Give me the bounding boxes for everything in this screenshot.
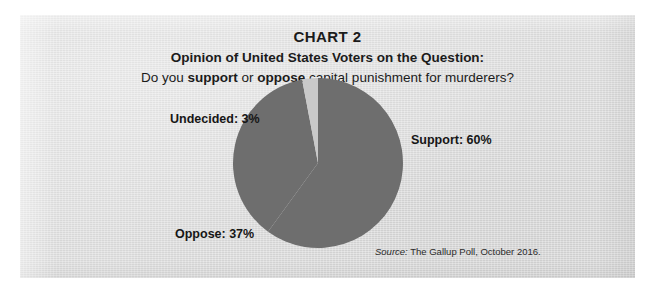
question-keyword-support: support	[188, 70, 238, 85]
pie-chart-svg	[233, 78, 403, 248]
chart-subtitle: Opinion of United States Voters on the Q…	[20, 50, 635, 65]
pie-chart	[233, 78, 403, 248]
source-text: The Gallup Poll, October 2016.	[408, 246, 541, 257]
source-note: Source: The Gallup Poll, October 2016.	[375, 246, 541, 257]
question-text-part1: Do you	[141, 70, 188, 85]
source-label: Source:	[375, 246, 408, 257]
pie-label-undecided: Undecided: 3%	[170, 112, 260, 126]
chart-figure-panel: CHART 2 Opinion of United States Voters …	[20, 15, 635, 278]
pie-label-support: Support: 60%	[411, 133, 492, 147]
chart-title: CHART 2	[20, 28, 635, 45]
pie-label-oppose: Oppose: 37%	[175, 227, 254, 241]
